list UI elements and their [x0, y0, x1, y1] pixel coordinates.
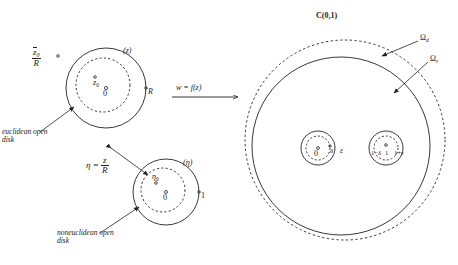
w-plane-group	[245, 40, 445, 240]
w-plane-one-dot	[385, 144, 388, 147]
omega-epsilon-label: Ωε	[430, 55, 438, 64]
w-plane-one-left-label: 1−δ	[371, 150, 381, 157]
z-plane-inner-dashed-circle	[76, 58, 130, 112]
noneuclidean-disk-caption: noneuclidean open disk	[57, 229, 114, 245]
w-plane-zero-delta-label: δ	[330, 148, 333, 155]
omega-epsilon-arrow	[394, 62, 428, 93]
z-plane-group	[40, 48, 147, 132]
z-plane-z0-label: z0	[93, 79, 99, 88]
figure-canvas: z0 R (z) z0 0 R euclidean open disk η = …	[0, 0, 458, 265]
omega-d-label: Ωd	[420, 34, 429, 43]
eta-plane-outer-circle	[133, 159, 199, 225]
eta-plane-eta0-label: η0	[152, 173, 159, 182]
w-plane-one-label: 1	[385, 150, 388, 157]
eta-plane-origin-label: 0	[163, 194, 167, 202]
eta-plane-radius-label: 1	[201, 192, 205, 200]
eta-substitution-arrow	[111, 148, 148, 175]
z-plane-outer-circle	[66, 48, 146, 128]
eta-substitution-formula: η = z R	[86, 156, 109, 175]
z-plane-reflected-point-dot	[57, 55, 60, 58]
unit-circle-label: C(0,1)	[316, 12, 337, 20]
z-plane-origin-label: 0	[103, 90, 107, 98]
w-plane-zero-epsilon-label: ε	[340, 147, 343, 155]
eta-plane-label: (η)	[183, 159, 192, 167]
z-plane-reflected-point-label: z0 R	[32, 47, 41, 68]
diagram-vector-layer	[0, 0, 458, 265]
epsilon-disk-zero-dashed	[306, 136, 330, 160]
map-arrow-label: w = f(z)	[176, 84, 201, 92]
z-plane-label: (z)	[123, 47, 131, 55]
omega-d-dashed-circle	[245, 40, 445, 240]
w-plane-zero-label: 0	[314, 150, 318, 158]
z-plane-radius-label: R	[148, 88, 153, 96]
euclidean-disk-caption: euclidean open disk	[2, 128, 48, 144]
w-plane-one-right-label: 1+ε	[394, 150, 404, 157]
omega-d-arrow	[382, 41, 418, 56]
